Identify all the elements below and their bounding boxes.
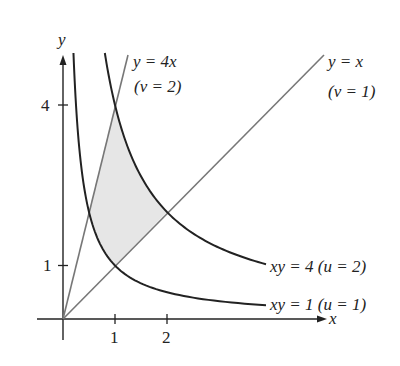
- label-v-eq-2: (v = 2): [134, 77, 182, 96]
- uv-region-diagram: 1 2 1 4 y x y = 4x (v = 2) y = x (v = 1)…: [0, 0, 400, 366]
- y-axis-arrow-icon: [60, 55, 67, 65]
- x-axis-arrow-icon: [317, 316, 327, 323]
- x-tick-label-1: 1: [110, 328, 119, 347]
- label-v-eq-1: (v = 1): [328, 82, 376, 101]
- label-xy-eq-4: xy = 4 (u = 2): [269, 257, 366, 276]
- y-tick-label-4: 4: [41, 96, 50, 115]
- y-tick-label-1: 1: [43, 256, 52, 275]
- label-y-eq-x: y = x: [326, 52, 364, 71]
- y-axis: [60, 55, 67, 340]
- y-axis-label: y: [56, 30, 66, 49]
- x-axis: [37, 316, 327, 323]
- label-xy-eq-1: xy = 1 (u = 1): [269, 295, 366, 314]
- shaded-region: [89, 105, 167, 266]
- x-tick-label-2: 2: [162, 328, 171, 347]
- label-y-eq-4x: y = 4x: [131, 52, 177, 71]
